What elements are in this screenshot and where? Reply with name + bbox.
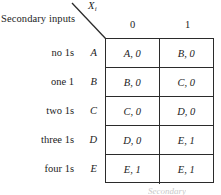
flow-table-figure: Secondary inputs Xi 0 1 no 1s A one 1 B … [0,0,221,195]
row-label-C: two 1s C [0,96,104,125]
cell-D-0: D, 0 [106,126,160,154]
cell-B-1: C, 0 [160,68,214,96]
row-state-E: E [91,154,97,183]
row-label-A: no 1s A [0,38,104,67]
row-state-C: C [90,96,97,125]
column-header-1: 1 [160,19,215,30]
cell-B-0: B, 0 [106,68,160,96]
row-description-C: two 1s [46,96,74,125]
cell-E-1: E, 1 [160,155,214,184]
row-state-B: B [91,67,97,96]
row-label-D: three 1s D [0,125,104,154]
row-description-B: one 1 [51,67,74,96]
cell-C-0: C, 0 [106,97,160,125]
column-header-0: 0 [105,19,160,30]
table-row: E, 1 E, 1 [106,155,213,184]
cell-E-0: E, 1 [106,155,160,184]
input-variable-subscript: i [95,5,97,13]
row-description-E: four 1s [45,154,74,183]
row-label-column: no 1s A one 1 B two 1s C three 1s D four… [0,38,104,183]
cell-C-1: D, 0 [160,97,214,125]
table-row: B, 0 C, 0 [106,68,213,97]
table-row: A, 0 B, 0 [106,39,213,68]
row-label-E: four 1s E [0,154,104,183]
table-row: D, 0 E, 1 [106,126,213,155]
input-variable-letter: X [88,0,94,11]
cell-A-1: B, 0 [160,39,214,67]
row-description-A: no 1s [52,38,74,67]
row-state-D: D [89,125,97,154]
input-variable-label: Xi [88,0,97,13]
transition-table-grid: A, 0 B, 0 B, 0 C, 0 C, 0 D, 0 D, 0 E, 1 … [105,38,214,183]
secondary-inputs-label: Secondary inputs [1,13,75,24]
row-description-D: three 1s [41,125,74,154]
cell-A-0: A, 0 [106,39,160,67]
cell-D-1: E, 1 [160,126,214,154]
row-state-A: A [91,38,97,67]
row-label-B: one 1 B [0,67,104,96]
bottom-caption-cutoff: Secondary [148,186,186,195]
table-row: C, 0 D, 0 [106,97,213,126]
